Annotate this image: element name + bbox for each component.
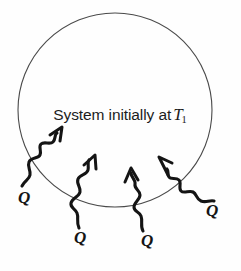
heat-arrow-mid-left-wave: [71, 160, 89, 228]
heat-arrow-mid-right: [125, 168, 143, 231]
heat-arrow-right-head: [159, 157, 172, 175]
heat-label-mid-right: Q: [141, 231, 153, 251]
heat-label-mid-left: Q: [74, 228, 86, 248]
heat-arrow-right: [159, 157, 214, 202]
thermodynamics-system-figure: System initially atT1 Q Q Q Q: [0, 0, 241, 271]
heat-arrow-left: [22, 127, 62, 186]
heat-label-left: Q: [18, 188, 30, 208]
heat-arrow-mid-left: [71, 155, 96, 228]
heat-arrow-mid-left-head: [84, 155, 96, 169]
heat-arrow-mid-right-wave: [131, 173, 143, 231]
system-label-text: System initially at: [53, 106, 171, 123]
system-label-row: System initially atT1: [53, 105, 187, 125]
heat-arrow-left-wave: [22, 133, 57, 186]
heat-arrow-right-wave: [167, 169, 214, 202]
temperature-subscript: 1: [182, 114, 187, 125]
temperature-symbol: T1: [171, 105, 188, 124]
system-label: System initially atT1: [0, 0, 241, 20]
figure-canvas: [0, 0, 241, 271]
heat-label-right: Q: [206, 201, 218, 221]
